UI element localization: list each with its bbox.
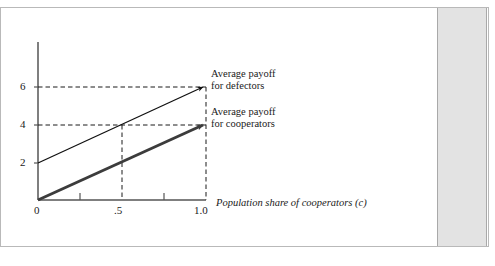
annotation-defectors-line2: for defectors (211, 80, 276, 92)
x-tick-label-05: .5 (114, 204, 122, 216)
annotation-defectors-line1: Average payoff (211, 68, 276, 80)
reference-lines (38, 87, 206, 200)
figure-page: 6 4 2 0 .5 1.0 Population share of coope… (0, 0, 495, 266)
y-tick-label-2: 2 (20, 156, 26, 168)
right-margin-band (437, 8, 487, 246)
series-cooperators-line (38, 125, 203, 200)
chart-figure: 6 4 2 0 .5 1.0 Population share of coope… (0, 7, 437, 247)
annotation-cooperators-line2: for cooperators (211, 118, 276, 130)
x-tick-label-10: 1.0 (194, 204, 208, 216)
x-tick-label-0: 0 (34, 204, 40, 216)
annotation-defectors: Average payoff for defectors (211, 68, 276, 92)
annotation-cooperators: Average payoff for cooperators (211, 106, 276, 130)
annotation-cooperators-line1: Average payoff (211, 106, 276, 118)
y-tick-label-4: 4 (20, 118, 26, 130)
x-axis-title: Population share of cooperators (c) (216, 197, 367, 209)
y-tick-label-6: 6 (20, 80, 26, 92)
chart-axes (38, 42, 206, 200)
